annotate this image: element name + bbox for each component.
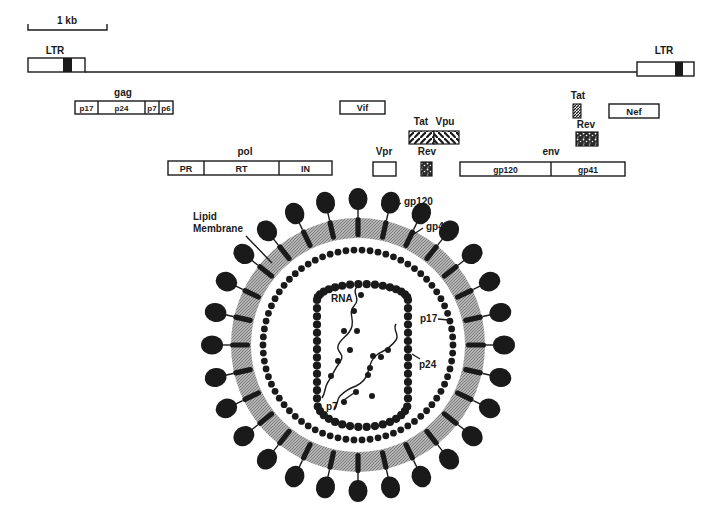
scale-bar-label: 1 kb: [57, 15, 77, 26]
gene-pol: pol PR RT IN: [168, 146, 332, 175]
matrix-p17-ring: [260, 247, 457, 444]
p17-label: p17: [420, 313, 438, 324]
vpu-box: [434, 131, 459, 144]
gag-p17: p17: [80, 104, 94, 113]
pol-label: pol: [238, 146, 253, 157]
gag-p24: p24: [115, 104, 129, 113]
ltr-left-label: LTR: [46, 45, 65, 56]
tat-exon2-label: Tat: [571, 90, 586, 101]
vif-label: Vif: [357, 103, 369, 113]
env-box: [460, 162, 625, 176]
gag-p6: p6: [161, 104, 171, 113]
rna-label: RNA: [331, 293, 353, 304]
gene-rev-exon1: Rev: [418, 146, 437, 176]
tat-exon1-box: [409, 131, 434, 144]
env-label: env: [542, 146, 560, 157]
tat-exon2-box: [573, 104, 581, 118]
pol-in: IN: [301, 164, 310, 174]
ltr-right-box: [637, 62, 694, 76]
tat-exon1-label: Tat: [414, 116, 429, 127]
env-gp41: gp41: [578, 165, 598, 175]
pol-rt: RT: [236, 164, 248, 174]
ltr-left: LTR: [28, 45, 85, 72]
vpu-label: Vpu: [436, 116, 455, 127]
nef-label: Nef: [626, 106, 642, 117]
gene-vif: Vif: [340, 101, 385, 114]
vpr-box: [373, 162, 396, 176]
gag-p7: p7: [147, 104, 157, 113]
gene-gag: gag p17 p24 p7 p6: [75, 87, 173, 114]
ltr-right: LTR: [637, 45, 694, 76]
p7-label: p7: [326, 401, 338, 412]
p24-label: p24: [419, 359, 437, 370]
gp41-label: gp41: [426, 221, 450, 232]
rev-exon1-label: Rev: [418, 146, 437, 157]
ltr-left-r-region: [63, 58, 72, 72]
rev-exon1-box: [421, 162, 432, 176]
gp120-label: gp120: [404, 196, 433, 207]
rna-genome: [322, 286, 397, 410]
pol-pr: PR: [180, 164, 193, 174]
rev-exon2-box: [576, 132, 598, 146]
lipid-membrane-label-line1: Lipid: [193, 211, 217, 222]
genome-map: LTR LTR gag p17 p24 p7 p6 pol: [28, 45, 694, 176]
gene-tat-exon2: Tat: [571, 90, 586, 118]
ltr-right-label: LTR: [655, 45, 674, 56]
envelope-spikes: [201, 188, 515, 502]
gene-nef: Nef: [609, 104, 659, 118]
rev-exon2-label: Rev: [577, 119, 596, 130]
virion: gp120 gp41 Lipid Membrane RNA p17 p24 p7: [193, 188, 515, 502]
vpr-label: Vpr: [376, 146, 393, 157]
ltr-right-r-region: [675, 62, 683, 76]
lipid-membrane-label-line2: Membrane: [193, 223, 243, 234]
ltr-left-box: [28, 58, 85, 72]
gene-tat-vpu: Tat Vpu: [409, 116, 459, 144]
gag-label: gag: [114, 87, 132, 98]
gene-env: env gp120 gp41: [460, 146, 625, 176]
gene-rev-exon2: Rev: [576, 119, 598, 146]
env-gp120: gp120: [493, 165, 518, 175]
gene-vpr: Vpr: [373, 146, 396, 176]
scale-bar: 1 kb: [28, 15, 107, 30]
